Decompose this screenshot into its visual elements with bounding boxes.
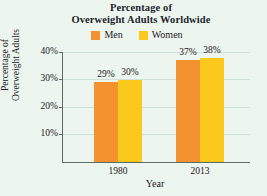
x-tick-label-2013: 2013 xyxy=(182,166,218,176)
y-tick-label-20: 20% xyxy=(24,102,58,112)
y-tick-mark-20 xyxy=(59,107,63,108)
bar-women-2013 xyxy=(200,58,224,163)
y-tick-label-10: 10% xyxy=(24,129,58,139)
chart-title-line-2: Overweight Adults Worldwide xyxy=(46,14,236,26)
x-axis-title: Year xyxy=(60,178,250,189)
bar-women-1980 xyxy=(118,80,142,163)
chart-title: Percentage of Overweight Adults Worldwid… xyxy=(46,2,236,25)
legend-entry-women: Women xyxy=(139,30,183,40)
y-tick-mark-10 xyxy=(59,134,63,135)
y-tick-mark-40 xyxy=(59,52,63,53)
y-tick-label-30: 30% xyxy=(24,74,58,84)
chart-legend: Men Women xyxy=(62,30,212,40)
y-axis-title-line-1: Percentage of xyxy=(0,39,10,91)
bar-value-women-1980: 30% xyxy=(112,67,148,77)
x-tick-label-1980: 1980 xyxy=(100,166,136,176)
plot-area: 40% 30% 20% 10% 29% 30% 37% 38% 1980 201… xyxy=(62,52,250,162)
x-axis-line xyxy=(62,162,250,163)
legend-label-women: Women xyxy=(152,30,183,40)
bar-men-1980 xyxy=(94,82,118,162)
legend-swatch-women-icon xyxy=(139,31,148,40)
chart-title-line-1: Percentage of xyxy=(110,2,172,13)
chart-container: Percentage of Overweight Adults Worldwid… xyxy=(0,0,267,196)
bar-men-2013 xyxy=(176,60,200,162)
y-tick-mark-30 xyxy=(59,79,63,80)
bar-value-women-2013: 38% xyxy=(194,45,230,55)
legend-label-men: Men xyxy=(104,30,122,40)
legend-entry-men: Men xyxy=(91,30,122,40)
legend-swatch-men-icon xyxy=(91,31,100,40)
y-tick-label-40: 40% xyxy=(24,47,58,57)
